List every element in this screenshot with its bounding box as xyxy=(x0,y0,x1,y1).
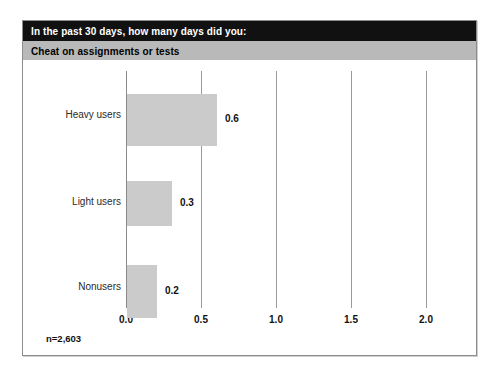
category-label-heavy-users: Heavy users xyxy=(33,109,121,120)
value-label-nonusers: 0.2 xyxy=(165,285,179,296)
chart-subtitle-bar: Cheat on assignments or tests xyxy=(23,41,476,60)
gridline-3 xyxy=(351,71,352,308)
category-label-nonusers: Nonusers xyxy=(33,281,121,292)
gridline-4 xyxy=(426,71,427,308)
category-label-light-users: Light users xyxy=(33,196,121,207)
title-suffix: did you: xyxy=(204,26,247,37)
plot-area: 0.0 0.5 1.0 1.5 2.0 Heavy users Light us… xyxy=(23,60,476,357)
x-tick-label-4: 2.0 xyxy=(419,314,433,325)
title-emphasis: days xyxy=(181,26,204,37)
title-prefix: In the past 30 days, how many xyxy=(31,26,181,37)
figure-panel: In the past 30 days, how many days did y… xyxy=(22,20,477,356)
value-label-light-users: 0.3 xyxy=(180,197,194,208)
bar-nonusers xyxy=(127,265,157,318)
gridline-2 xyxy=(276,71,277,308)
x-tick-label-1: 0.5 xyxy=(194,314,208,325)
value-label-heavy-users: 0.6 xyxy=(225,113,239,124)
page-title: In the past 30 days, how many days did y… xyxy=(31,26,246,37)
x-tick-label-3: 1.5 xyxy=(344,314,358,325)
bar-heavy-users xyxy=(127,94,217,146)
chart-title-bar: In the past 30 days, how many days did y… xyxy=(23,21,476,41)
x-tick-label-2: 1.0 xyxy=(269,314,283,325)
chart-subtitle: Cheat on assignments or tests xyxy=(31,45,180,56)
sample-size-note: n=2,603 xyxy=(46,333,81,344)
bar-light-users xyxy=(127,181,172,226)
